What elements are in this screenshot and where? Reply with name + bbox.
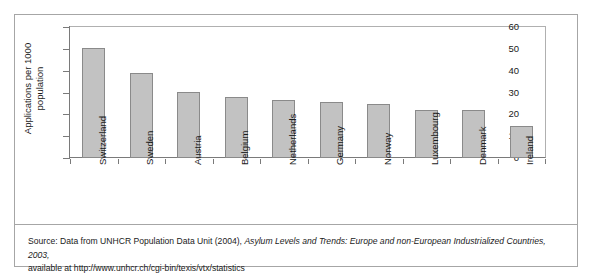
x-tick-mark xyxy=(165,159,166,164)
x-axis-category-label: Denmark xyxy=(478,126,488,165)
x-tick-mark xyxy=(118,159,119,164)
x-tick-mark xyxy=(260,159,261,164)
y-tick-mark xyxy=(63,136,69,137)
x-tick-mark xyxy=(355,159,356,164)
y-tick-mark xyxy=(63,71,69,72)
x-axis-category-label: Sweden xyxy=(145,131,155,165)
y-tick-mark xyxy=(63,27,69,28)
x-axis-category-label: Germany xyxy=(335,126,345,165)
x-tick-mark xyxy=(70,159,71,164)
x-axis-category-label: Switzerland xyxy=(98,116,108,165)
x-tick-mark xyxy=(545,159,546,164)
x-axis-category-label: Norway xyxy=(383,133,393,165)
caption-divider xyxy=(15,224,577,225)
y-tick-mark xyxy=(63,49,69,50)
y-tick-mark xyxy=(63,114,69,115)
y-tick-mark xyxy=(63,93,69,94)
chart-region: Applications per 1000 population 6050403… xyxy=(15,15,577,223)
x-tick-mark xyxy=(450,159,451,164)
y-tick-mark xyxy=(63,158,69,159)
x-tick-mark xyxy=(498,159,499,164)
caption-prefix: Source: Data from UNHCR Population Data … xyxy=(28,236,244,246)
x-axis-category-label: Austria xyxy=(193,135,203,165)
x-tick-mark xyxy=(308,159,309,164)
x-tick-mark xyxy=(403,159,404,164)
x-axis-category-label: Luxembourg xyxy=(430,112,440,165)
y-axis-title: Applications per 1000 population xyxy=(22,19,45,159)
bar-series xyxy=(70,27,545,158)
x-tick-mark xyxy=(213,159,214,164)
source-caption: Source: Data from UNHCR Population Data … xyxy=(28,235,568,276)
caption-url-line: available at http://www.unhcr.ch/cgi-bin… xyxy=(28,263,245,273)
x-axis-category-label: Netherlands xyxy=(288,114,298,165)
x-axis-category-label: Belgium xyxy=(240,131,250,165)
x-axis-category-label: Ireland xyxy=(525,136,535,165)
figure-container: Applications per 1000 population 6050403… xyxy=(14,14,578,267)
